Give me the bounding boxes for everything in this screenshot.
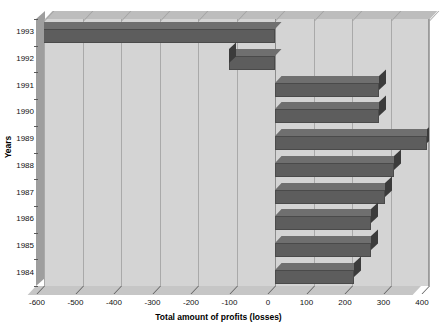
bar-1990	[275, 109, 379, 123]
x-tick-mark-200	[345, 286, 353, 294]
y-tick-mark	[34, 126, 38, 127]
y-tick-label-1993: 1993	[0, 27, 34, 36]
bar-top	[275, 209, 378, 216]
y-axis-label: Years	[3, 117, 13, 177]
bar-side	[371, 203, 378, 224]
x-tick-label--500: -500	[56, 298, 96, 307]
bar-face	[275, 216, 371, 230]
y-tick-mark	[34, 233, 38, 234]
y-tick-mark	[34, 153, 38, 154]
bar-face	[275, 109, 379, 123]
x-tick-label--600: -600	[17, 298, 57, 307]
x-tick-label-200: 200	[325, 298, 365, 307]
bar-1993	[44, 29, 275, 43]
x-tick-mark-400	[422, 286, 430, 294]
x-tick-label--300: -300	[133, 298, 173, 307]
y-tick-label-1990: 1990	[0, 107, 34, 116]
x-tick-label--200: -200	[171, 298, 211, 307]
x-tick-mark--400	[114, 286, 122, 294]
y-tick-mark	[34, 72, 38, 73]
x-tick-mark-300	[383, 286, 391, 294]
bar-top	[275, 263, 360, 270]
bar-top	[275, 236, 378, 243]
y-tick-mark	[34, 206, 38, 207]
x-tick-mark--500	[75, 286, 83, 294]
bar-top	[275, 102, 385, 109]
bar-side	[385, 176, 392, 197]
x-tick-label--100: -100	[210, 298, 250, 307]
bar-1992	[229, 56, 275, 70]
bar-1985	[275, 243, 371, 257]
bar-top	[275, 156, 401, 163]
y-tick-label-1985: 1985	[0, 241, 34, 250]
bar-top	[229, 49, 282, 56]
bar-1987	[275, 190, 385, 204]
bar-top	[275, 183, 391, 190]
bar-1988	[275, 163, 394, 177]
bar-top	[275, 129, 429, 136]
x-tick-label-300: 300	[364, 298, 404, 307]
x-tick-mark--100	[229, 286, 237, 294]
bar-face	[275, 163, 394, 177]
bar-1986	[275, 216, 371, 230]
y-tick-mark	[34, 286, 38, 287]
bar-1989	[275, 136, 427, 150]
bar-face	[275, 270, 354, 284]
y-tick-mark	[34, 259, 38, 260]
bar-1991	[275, 83, 379, 97]
bar-side	[379, 69, 386, 90]
x-tick-mark--200	[191, 286, 199, 294]
bar-top	[44, 22, 282, 29]
x-tick-mark-100	[306, 286, 314, 294]
y-tick-label-1991: 1991	[0, 81, 34, 90]
bar-face	[229, 56, 275, 70]
bar-side	[354, 256, 361, 277]
y-tick-mark	[34, 99, 38, 100]
bar-series	[44, 19, 429, 286]
y-tick-mark	[34, 179, 38, 180]
bar-1984	[275, 270, 354, 284]
bar-side	[379, 96, 386, 117]
bar-side	[394, 149, 401, 170]
y-tick-label-1987: 1987	[0, 188, 34, 197]
bar-side	[371, 229, 378, 250]
x-tick-label-0: 0	[248, 298, 288, 307]
y-tick-label-1984: 1984	[0, 268, 34, 277]
y-tick-mark	[34, 46, 38, 47]
x-tick-mark--300	[152, 286, 160, 294]
x-tick-label-100: 100	[287, 298, 327, 307]
bar-face	[275, 83, 379, 97]
bar-face	[275, 243, 371, 257]
bar-top	[275, 76, 385, 83]
bar-side	[427, 123, 429, 144]
y-tick-label-1992: 1992	[0, 54, 34, 63]
x-axis-label: Total amount of profits (losses)	[0, 312, 437, 322]
bar-face	[275, 190, 385, 204]
y-tick-mark	[34, 19, 38, 20]
x-tick-label--400: -400	[94, 298, 134, 307]
y-tick-label-1986: 1986	[0, 214, 34, 223]
x-tick-label-400: 400	[402, 298, 442, 307]
bar-face	[275, 136, 427, 150]
gridline-400	[429, 19, 430, 286]
x-tick-mark-0	[268, 286, 276, 294]
bar-face	[44, 29, 275, 43]
